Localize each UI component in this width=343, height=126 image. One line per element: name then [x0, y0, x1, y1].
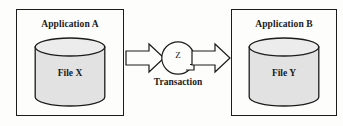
application-a-title: Application A	[17, 19, 123, 29]
application-b-title: Application B	[232, 19, 336, 29]
transaction-group: Z Transaction	[124, 40, 232, 92]
transaction-node-label: Z	[124, 50, 232, 60]
cylinder-file-x: File X	[34, 37, 106, 107]
file-x-label: File X	[34, 68, 106, 78]
file-y-label: File Y	[248, 68, 320, 78]
cylinder-file-y: File Y	[248, 37, 320, 107]
application-box-a: Application A File X	[16, 9, 124, 116]
transaction-caption: Transaction	[116, 77, 240, 87]
diagram-canvas: Application A File X	[0, 0, 343, 126]
application-box-b: Application B File Y	[231, 9, 337, 116]
